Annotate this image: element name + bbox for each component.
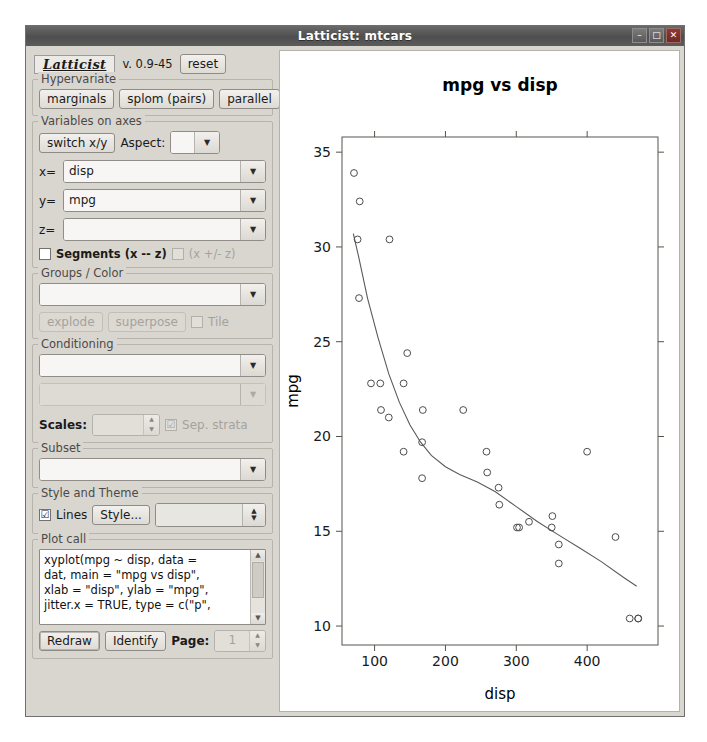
x-tick-label: 400 bbox=[574, 653, 601, 669]
axes-legend: Variables on axes bbox=[38, 114, 145, 128]
plot-call-textarea[interactable]: xyplot(mpg ~ disp, data = dat, main = "m… bbox=[39, 549, 266, 625]
chevron-down-icon: ▼ bbox=[240, 284, 265, 305]
up-down-arrows-icon: ▲▼ bbox=[242, 504, 265, 526]
data-point bbox=[460, 407, 467, 414]
plot-panel[interactable]: mpg vs disp100200300400101520253035dispm… bbox=[279, 50, 680, 712]
tile-checkbox bbox=[191, 316, 203, 328]
x-tick-label: 300 bbox=[503, 653, 530, 669]
subset-combo[interactable]: ▼ bbox=[39, 458, 266, 481]
maximize-button[interactable]: □ bbox=[649, 28, 664, 43]
page-value: 1 bbox=[215, 631, 249, 651]
hypervariate-legend: Hypervariate bbox=[38, 72, 119, 86]
y-variable-combo[interactable]: mpg ▼ bbox=[63, 189, 266, 212]
splom-button[interactable]: splom (pairs) bbox=[119, 89, 214, 109]
scrollbar-thumb[interactable] bbox=[252, 562, 264, 598]
segments-row: Segments (x -- z) (x +/- z) bbox=[39, 247, 266, 261]
x-tick-label: 100 bbox=[361, 653, 388, 669]
subset-group: Subset ▼ bbox=[32, 448, 273, 488]
chevron-down-icon: ▼ bbox=[240, 161, 265, 182]
conditioning-row-2: ▼ bbox=[39, 383, 266, 406]
style-button[interactable]: Style... bbox=[92, 505, 150, 525]
data-point bbox=[548, 524, 555, 531]
lines-label: Lines bbox=[56, 508, 87, 522]
data-point bbox=[584, 448, 591, 455]
data-point bbox=[404, 350, 411, 357]
tile-checkbox-wrap: Tile bbox=[191, 315, 229, 329]
pm-checkbox bbox=[172, 248, 184, 260]
marginals-button[interactable]: marginals bbox=[39, 89, 114, 109]
data-point bbox=[484, 469, 491, 476]
minimize-button[interactable]: – bbox=[632, 28, 647, 43]
theme-selector[interactable]: ▲▼ bbox=[155, 503, 266, 527]
z-variable-row: z= ▼ bbox=[39, 218, 266, 241]
action-buttons-row: Redraw Identify Page: 1 ▲▼ bbox=[39, 630, 266, 652]
x-variable-value: disp bbox=[64, 161, 240, 182]
aspect-label: Aspect: bbox=[120, 136, 165, 150]
subset-value bbox=[40, 459, 240, 480]
aspect-combo[interactable]: ▼ bbox=[170, 131, 220, 154]
y-variable-value: mpg bbox=[64, 190, 240, 211]
chart-title: mpg vs disp bbox=[442, 75, 557, 95]
plot-call-text: xyplot(mpg ~ disp, data = dat, main = "m… bbox=[40, 550, 250, 624]
conditioning-row-1: ▼ bbox=[39, 354, 266, 377]
data-point bbox=[354, 236, 361, 243]
data-point bbox=[496, 501, 503, 508]
tile-label: Tile bbox=[208, 315, 229, 329]
subset-row: ▼ bbox=[39, 458, 266, 481]
identify-button[interactable]: Identify bbox=[105, 631, 166, 651]
window-controls: – □ ✕ bbox=[632, 28, 681, 43]
y-label: y= bbox=[39, 194, 59, 208]
pm-label: (x +/- z) bbox=[189, 247, 236, 261]
scales-label: Scales: bbox=[39, 418, 87, 432]
data-point bbox=[368, 380, 375, 387]
chevron-down-icon: ▼ bbox=[240, 384, 265, 405]
x-tick-label: 200 bbox=[432, 653, 459, 669]
x-variable-row: x= disp ▼ bbox=[39, 160, 266, 183]
groups-legend: Groups / Color bbox=[38, 266, 126, 280]
x-variable-combo[interactable]: disp ▼ bbox=[63, 160, 266, 183]
axes-top-row: switch x/y Aspect: ▼ bbox=[39, 131, 266, 154]
z-variable-combo[interactable]: ▼ bbox=[63, 218, 266, 241]
plot-call-group: Plot call xyplot(mpg ~ disp, data = dat,… bbox=[32, 539, 273, 659]
variables-on-axes-group: Variables on axes switch x/y Aspect: ▼ x… bbox=[32, 121, 273, 268]
sep-strata-wrap: ☑ Sep. strata bbox=[165, 418, 248, 432]
theme-value bbox=[156, 504, 242, 526]
plot-call-legend: Plot call bbox=[38, 532, 89, 546]
page-spinner: 1 ▲▼ bbox=[214, 630, 266, 652]
redraw-button[interactable]: Redraw bbox=[39, 631, 100, 651]
aspect-value bbox=[171, 132, 194, 153]
groups-combo[interactable]: ▼ bbox=[39, 283, 266, 306]
style-row: ☑ Lines Style... ▲▼ bbox=[39, 503, 266, 527]
y-axis-label: mpg bbox=[284, 374, 302, 408]
data-point bbox=[419, 475, 426, 482]
sep-strata-checkbox: ☑ bbox=[165, 419, 177, 431]
z-label: z= bbox=[39, 223, 59, 237]
data-point bbox=[526, 518, 533, 525]
reset-button[interactable]: reset bbox=[180, 54, 226, 74]
data-point bbox=[400, 448, 407, 455]
pm-checkbox-wrap: (x +/- z) bbox=[172, 247, 236, 261]
scroll-down-icon[interactable]: ▼ bbox=[251, 613, 265, 624]
conditioning-combo-1[interactable]: ▼ bbox=[39, 354, 266, 377]
lines-checkbox-wrap[interactable]: ☑ Lines bbox=[39, 508, 87, 522]
close-button[interactable]: ✕ bbox=[666, 28, 681, 43]
segments-checkbox[interactable] bbox=[39, 248, 51, 260]
segments-checkbox-wrap[interactable]: Segments (x -- z) bbox=[39, 247, 167, 261]
chevron-down-icon: ▼ bbox=[240, 459, 265, 480]
data-point bbox=[419, 407, 426, 414]
data-point bbox=[356, 198, 363, 205]
y-tick-label: 35 bbox=[313, 144, 331, 160]
switch-xy-button[interactable]: switch x/y bbox=[39, 133, 115, 153]
hypervariate-group: Hypervariate marginals splom (pairs) par… bbox=[32, 79, 273, 116]
parallel-button[interactable]: parallel bbox=[219, 89, 280, 109]
chevron-down-icon: ▼ bbox=[240, 219, 265, 240]
lines-checkbox[interactable]: ☑ bbox=[39, 509, 51, 521]
data-point bbox=[555, 541, 562, 548]
plot-call-scrollbar[interactable]: ▲ ▼ bbox=[250, 550, 265, 624]
data-point bbox=[612, 534, 619, 541]
conditioning-value-1 bbox=[40, 355, 240, 376]
groups-color-group: Groups / Color ▼ explode superpose Tile bbox=[32, 273, 273, 339]
window-titlebar[interactable]: Latticist: mtcars – □ ✕ bbox=[26, 26, 684, 46]
scroll-up-icon[interactable]: ▲ bbox=[251, 550, 265, 561]
window-client-area: Latticist v. 0.9-45 reset Hypervariate m… bbox=[26, 46, 684, 716]
